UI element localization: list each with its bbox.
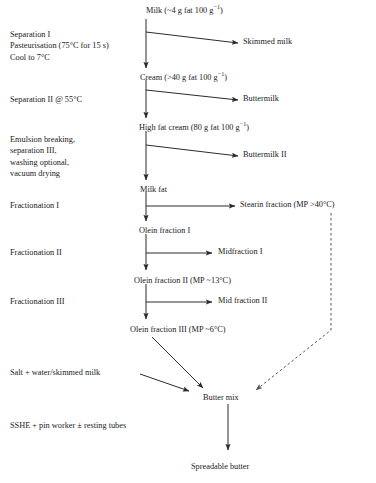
stream-label-buttermilk: Buttermilk bbox=[243, 93, 279, 104]
arrow-salt-water-to-butter-mix bbox=[140, 374, 189, 391]
stream-label-midfraction-i: Midfraction I bbox=[218, 246, 262, 257]
process-label-salt-water: Salt + water/skimmed milk bbox=[10, 367, 100, 378]
process-label-separation-i: Separation I Pasteurisation (75°C for 15… bbox=[10, 29, 142, 63]
stream-label-mid-fraction-ii: Mid fraction II bbox=[218, 295, 267, 306]
arrow-milk-to-skimmed-milk bbox=[146, 32, 238, 43]
stream-label-high-fat-cream: High fat cream (80 g fat 100 g−1) bbox=[139, 122, 249, 133]
stream-label-spreadable-butter: Spreadable butter bbox=[191, 461, 249, 472]
stream-label-cream: Cream (>40 g fat 100 g−1) bbox=[140, 72, 227, 83]
stream-label-milk-fat: Milk fat bbox=[140, 184, 167, 195]
stream-label-olein-fraction-i: Olein fraction I bbox=[139, 225, 190, 236]
process-label-fractionation-iii: Fractionation III bbox=[10, 296, 65, 307]
process-label-sshe: SSHE + pin worker ± resting tubes bbox=[10, 420, 126, 431]
process-label-emulsion-breaking: Emulsion breaking, separation III, washi… bbox=[10, 134, 130, 180]
process-label-fractionation-ii: Fractionation II bbox=[10, 247, 62, 258]
process-flow-diagram: Milk (~4 g fat 100 g−1) Skimmed milk Cre… bbox=[0, 0, 376, 483]
arrow-high-fat-cream-to-buttermilk-ii bbox=[146, 145, 238, 156]
stream-label-olein-fraction-iii: Olein fraction III (MP ~6°C) bbox=[130, 324, 226, 335]
stream-label-olein-fraction-ii: Olein fraction II (MP ~13°C) bbox=[134, 275, 231, 286]
stream-label-skimmed-milk: Skimmed milk bbox=[243, 36, 292, 47]
stream-label-butter-mix: Butter mix bbox=[203, 392, 239, 403]
arrow-cream-to-buttermilk bbox=[146, 90, 238, 100]
process-label-separation-ii: Separation II @ 55°C bbox=[10, 94, 82, 105]
process-label-fractionation-i: Fractionation I bbox=[10, 200, 59, 211]
stream-label-milk: Milk (~4 g fat 100 g−1) bbox=[146, 5, 223, 16]
stream-label-buttermilk-ii: Buttermilk II bbox=[243, 149, 287, 160]
stream-label-stearin-fraction: Stearin fraction (MP >40°C) bbox=[240, 199, 335, 210]
